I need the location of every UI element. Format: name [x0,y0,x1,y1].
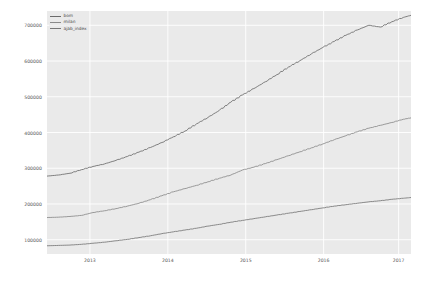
legend-color-swatch [50,22,61,23]
y-tick-label: 600000 [24,59,42,64]
plot-area [47,11,411,254]
legend-color-swatch [50,28,61,29]
x-tick-label: 2013 [84,258,96,263]
y-tick-label: 500000 [24,94,42,99]
x-tick-label: 2016 [318,258,330,263]
series-line-bom [47,15,411,176]
chart-figure: 7000006000005000004000003000002000001000… [0,0,425,281]
y-tick-label: 200000 [24,201,42,206]
legend-item: ajab_index [50,26,87,32]
y-tick-label: 300000 [24,166,42,171]
data-series-group [47,11,411,254]
y-tick-label: 700000 [24,23,42,28]
legend-color-swatch [50,16,61,17]
x-tick-label: 2015 [240,258,252,263]
x-tick-label: 2017 [393,258,405,263]
y-tick-label: 100000 [24,237,42,242]
chart-legend: bommilanajab_index [49,12,89,33]
series-line-ajab_index [47,198,411,246]
series-line-milan [47,118,411,218]
legend-label: ajab_index [64,26,87,32]
y-tick-label: 400000 [24,130,42,135]
x-tick-label: 2014 [162,258,174,263]
